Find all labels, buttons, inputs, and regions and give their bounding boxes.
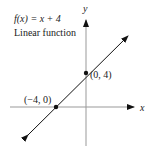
y-axis-label: y <box>83 4 87 14</box>
function-line <box>28 36 128 135</box>
x-axis-label: x <box>140 103 144 113</box>
equation-label: f(x) = x + 4 <box>14 14 61 24</box>
point-a-label: (−4, 0) <box>24 95 51 105</box>
point-b-label: (0, 4) <box>90 70 112 80</box>
point-neg4-0 <box>54 105 58 109</box>
caption-label: Linear function <box>14 28 76 38</box>
point-0-4 <box>84 71 88 75</box>
